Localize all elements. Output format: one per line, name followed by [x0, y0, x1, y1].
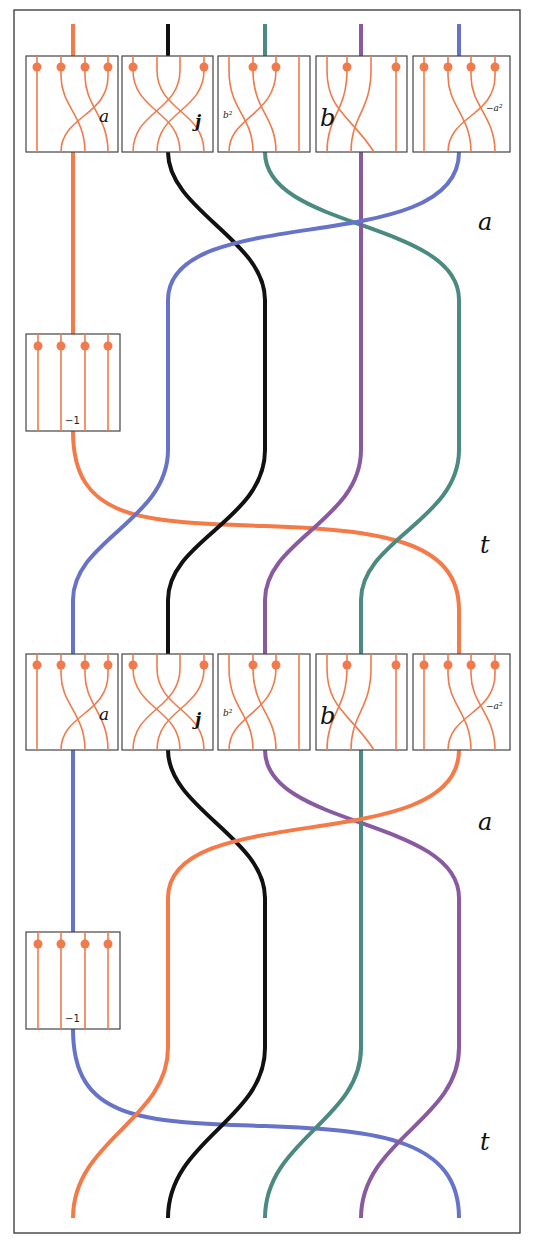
box-label: −a² — [486, 103, 503, 113]
row2-boxes: a j b² b — [26, 654, 510, 750]
box-label: −a² — [486, 701, 503, 711]
box-label: −1 — [65, 1013, 80, 1024]
scalar-box-1: −1 — [26, 334, 120, 431]
strands-segment-2 — [73, 750, 459, 1218]
box-a: a — [26, 654, 118, 750]
box-label: a — [99, 106, 109, 126]
box-label: −1 — [65, 415, 80, 426]
box-b: b — [316, 56, 407, 152]
side-label-a-2: a — [478, 808, 492, 836]
box-b-squared: b² — [218, 56, 310, 152]
row1-boxes: a j b² b — [26, 56, 510, 152]
box-label: b² — [223, 708, 233, 718]
side-label-t-1: t — [480, 531, 490, 559]
box-j: j — [122, 654, 213, 750]
box-label: b² — [223, 110, 233, 120]
side-label-t-2: t — [480, 1128, 490, 1156]
box-label: b — [320, 104, 335, 132]
box-label: a — [99, 704, 109, 724]
strand-black-2 — [168, 750, 265, 1218]
box-a: a — [26, 56, 118, 152]
box-label: b — [320, 702, 335, 730]
box-b-squared: b² — [218, 654, 310, 750]
side-label-a-1: a — [478, 208, 492, 236]
box-j: j — [122, 56, 213, 152]
box-minus-a-squared: −a² — [413, 56, 510, 152]
braid-diagram: a j b² b — [0, 0, 533, 1252]
scalar-box-2: −1 — [26, 932, 120, 1029]
box-minus-a-squared: −a² — [413, 654, 510, 750]
box-b: b — [316, 654, 407, 750]
